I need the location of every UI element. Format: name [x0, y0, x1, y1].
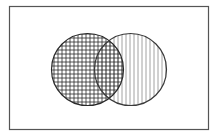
venn-diagram	[0, 0, 214, 134]
